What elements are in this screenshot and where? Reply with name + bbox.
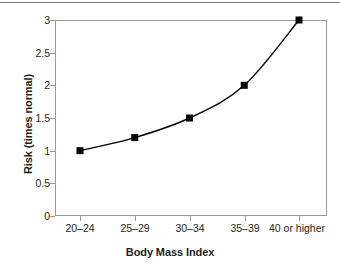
data-point-marker bbox=[241, 82, 248, 89]
data-point-marker bbox=[77, 147, 84, 154]
risk-curve-line bbox=[80, 20, 299, 151]
risk-vs-bmi-chart: 3 2.5 2 1.5 1 0.5 0 Risk (times normal) … bbox=[0, 0, 340, 267]
data-point-marker bbox=[186, 115, 193, 122]
data-series-layer bbox=[0, 0, 340, 267]
data-point-marker bbox=[131, 134, 138, 141]
data-point-marker bbox=[296, 17, 303, 24]
data-markers bbox=[77, 17, 303, 155]
